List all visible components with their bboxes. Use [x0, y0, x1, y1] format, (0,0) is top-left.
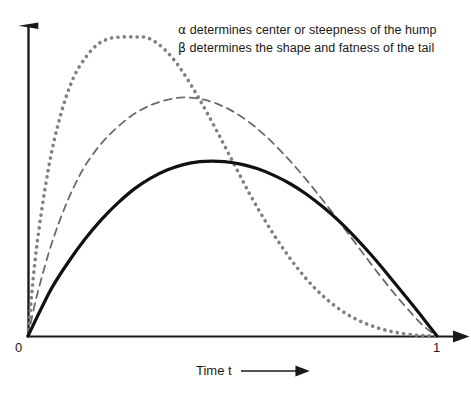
beta-distribution-figure: α determines center or steepness of the … [0, 0, 471, 397]
curve-solid [28, 161, 437, 336]
curve-group [28, 37, 437, 336]
curve-dashed [28, 97, 437, 336]
curve-dotted [28, 37, 437, 336]
plot-canvas [0, 0, 471, 397]
